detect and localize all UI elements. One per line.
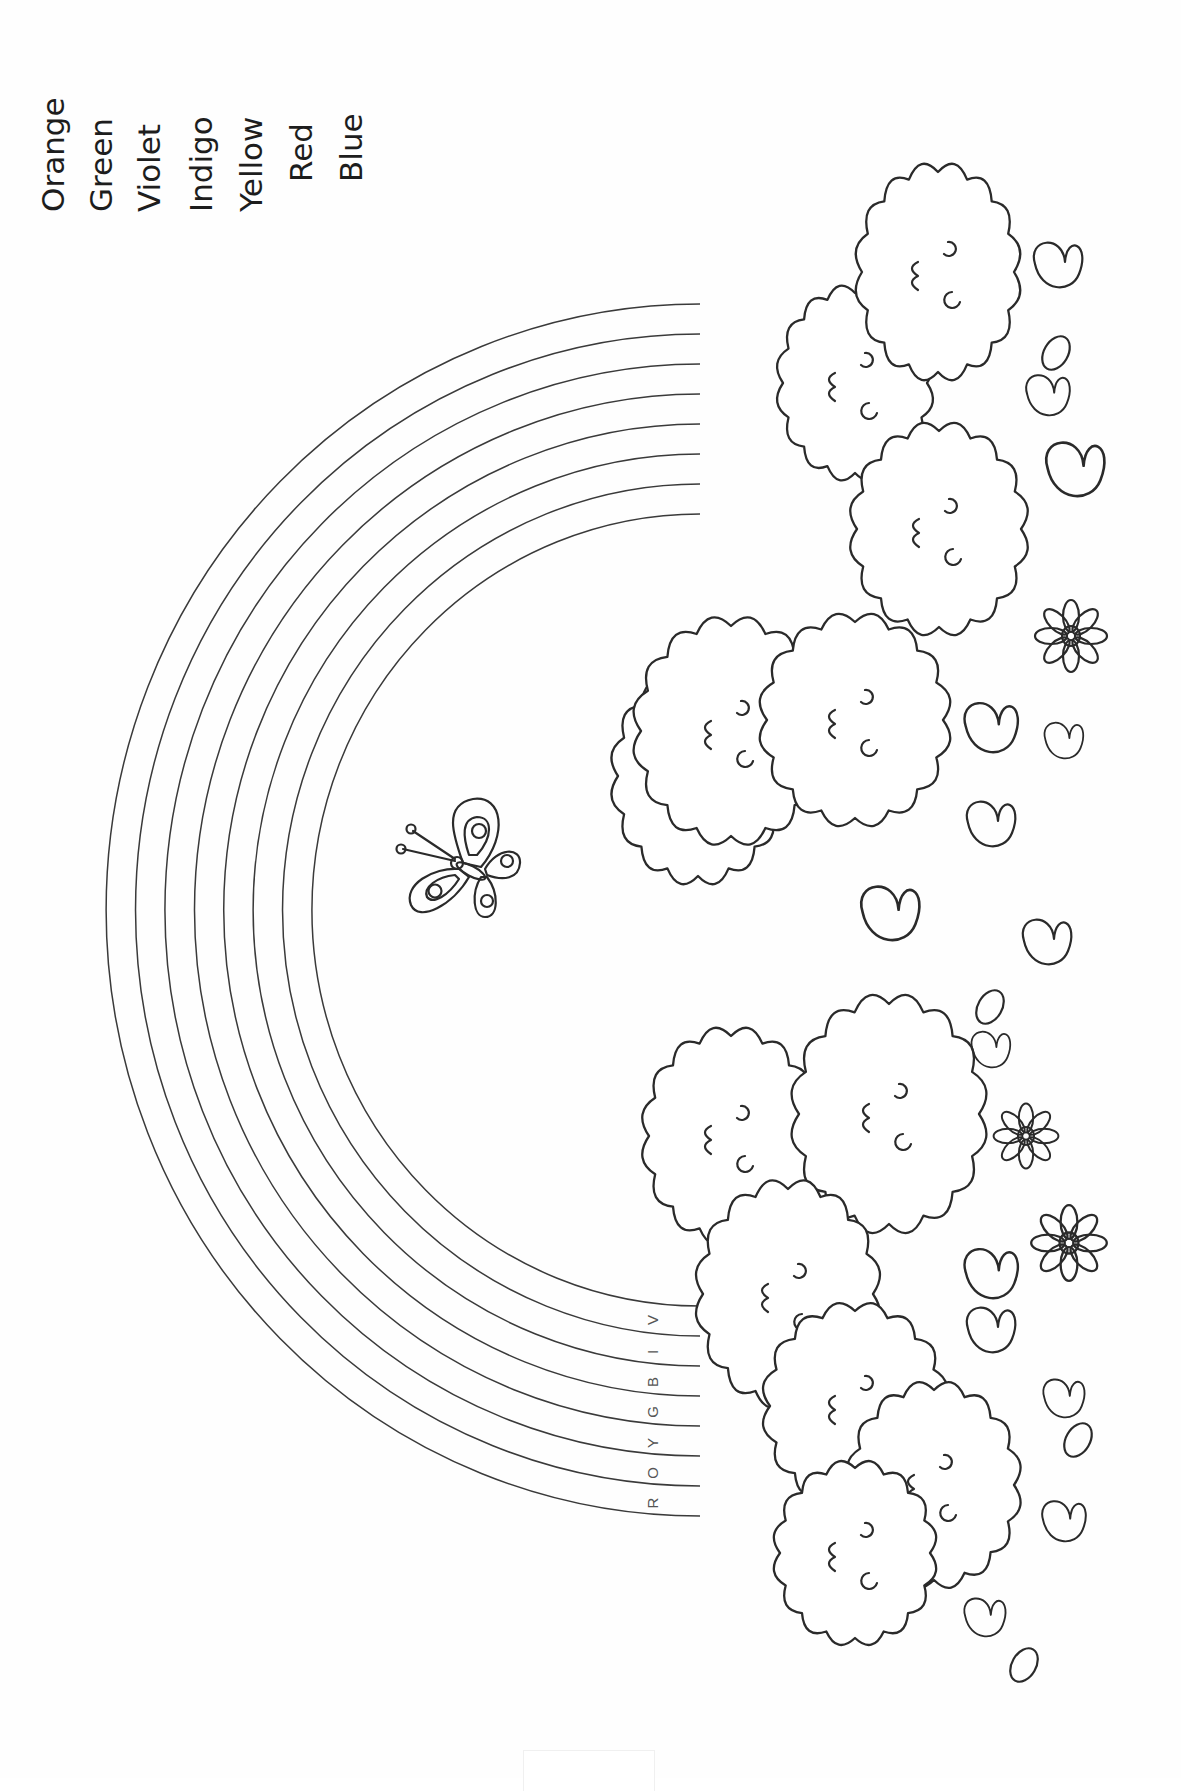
- band-letter: Y: [645, 1435, 661, 1451]
- seed-icon: [1005, 1643, 1044, 1686]
- rainbow-arc-line: [194, 394, 700, 1426]
- flower-icon: [994, 1104, 1059, 1169]
- leaf-icon: [971, 1032, 1010, 1068]
- leaf-icon: [1023, 920, 1072, 965]
- leaf-icon: [1043, 1379, 1084, 1417]
- rainbow-arcs: [106, 304, 700, 1516]
- flower-group: [994, 600, 1107, 1281]
- seed-icon: [971, 985, 1010, 1028]
- rainbow-arc-line: [224, 424, 700, 1396]
- leaf-icon: [1026, 375, 1070, 415]
- flower-icon: [1031, 1205, 1107, 1281]
- page-tab: [523, 1750, 655, 1791]
- legend-word: Red: [286, 123, 317, 182]
- leaf-icon: [1034, 243, 1083, 288]
- band-letter: G: [645, 1404, 661, 1420]
- leaf-icon: [1042, 1501, 1086, 1541]
- rainbow-arc-line: [312, 514, 700, 1306]
- rainbow-arc-line: [283, 484, 700, 1336]
- leaf-icon: [965, 703, 1018, 752]
- legend-word: Green: [86, 118, 117, 212]
- band-letter: O: [645, 1465, 661, 1481]
- band-letter: R: [645, 1495, 661, 1511]
- seed-icon: [1037, 331, 1076, 374]
- rainbow-arc-line: [136, 334, 700, 1486]
- band-letter: B: [645, 1374, 661, 1390]
- band-letter: V: [645, 1312, 661, 1328]
- legend-word: Blue: [336, 113, 367, 182]
- legend-word: Orange: [38, 97, 69, 212]
- leaf-icon: [967, 802, 1016, 847]
- leaf-icon: [964, 1598, 1005, 1636]
- legend-word: Indigo: [186, 116, 217, 212]
- leaf-icon: [1044, 723, 1083, 759]
- leaf-icon: [967, 1308, 1016, 1353]
- band-letter: I: [645, 1344, 661, 1360]
- butterfly-icon: [397, 799, 521, 917]
- leaf-icon: [1046, 443, 1104, 497]
- bush-group: [611, 164, 1027, 1645]
- flower-icon: [1035, 600, 1107, 672]
- legend-word: Yellow: [236, 117, 267, 212]
- legend-word: Violet: [134, 124, 165, 212]
- seed-icon: [1059, 1418, 1098, 1461]
- leaf-icon: [965, 1249, 1018, 1298]
- leaf-icon: [861, 887, 919, 941]
